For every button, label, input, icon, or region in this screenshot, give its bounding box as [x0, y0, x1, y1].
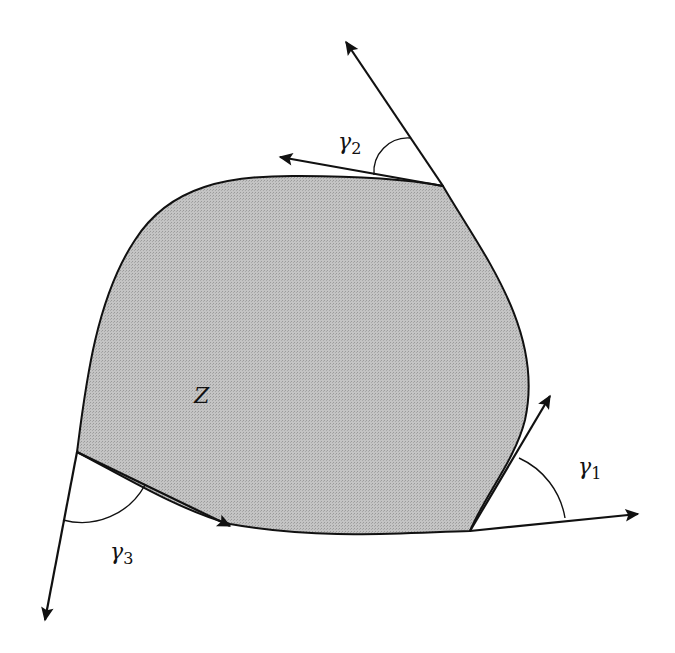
normal-arrow-3: [45, 452, 77, 620]
tangent-arrow-1: [470, 514, 638, 531]
region-z: [77, 176, 529, 534]
region-label: Z: [193, 383, 210, 408]
angle-label-1: γ1: [578, 454, 601, 483]
angle-label-3: γ3: [110, 539, 133, 568]
angle-label-2: γ2: [338, 129, 361, 158]
angle-arc-3: [63, 485, 145, 522]
angle-arc-2: [374, 138, 410, 175]
corner-2: γ2: [280, 42, 443, 186]
normal-arrow-2: [346, 42, 443, 186]
angle-arc-1: [519, 458, 565, 518]
domain-diagram: γ2 γ1 γ3 Z: [0, 0, 675, 653]
